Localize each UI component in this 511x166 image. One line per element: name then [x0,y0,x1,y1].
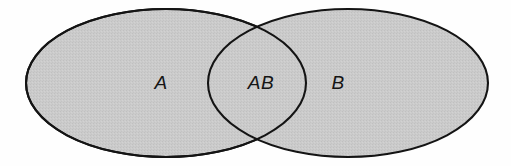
venn-diagram-figure: A AB B [0,0,511,166]
set-b-label: B [331,72,344,93]
venn-diagram-canvas: A AB B [0,0,511,166]
set-a-label: A [153,72,167,93]
set-ab-label: AB [247,72,274,93]
